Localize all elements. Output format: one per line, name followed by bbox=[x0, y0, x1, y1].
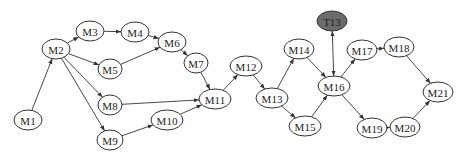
node-label: M15 bbox=[295, 121, 316, 133]
node-m7: M7 bbox=[184, 53, 208, 73]
node-m11: M11 bbox=[199, 89, 231, 109]
node-label: T13 bbox=[323, 16, 341, 28]
edge-m1-m2 bbox=[32, 59, 52, 111]
edge-m4-m6 bbox=[148, 36, 159, 39]
node-label: M3 bbox=[82, 26, 98, 38]
node-label: M4 bbox=[127, 27, 143, 39]
edge-m2-m8 bbox=[64, 57, 103, 97]
node-label: M20 bbox=[395, 122, 416, 134]
node-label: M21 bbox=[428, 87, 449, 99]
edge-m10-m11 bbox=[180, 105, 202, 115]
node-m6: M6 bbox=[158, 32, 186, 52]
node-m20: M20 bbox=[390, 117, 420, 137]
edge-m18-m21 bbox=[407, 56, 431, 84]
edge-m13-m15 bbox=[281, 106, 295, 118]
node-m14: M14 bbox=[284, 39, 314, 59]
node-m15: M15 bbox=[289, 116, 321, 136]
edge-m17-m18 bbox=[377, 48, 384, 49]
node-label: M5 bbox=[102, 64, 118, 76]
edge-m8-m11 bbox=[122, 100, 199, 104]
node-label: M2 bbox=[48, 44, 63, 56]
edge-m11-m12 bbox=[223, 75, 238, 91]
node-m10: M10 bbox=[151, 110, 183, 130]
edge-m15-m16 bbox=[312, 95, 328, 117]
node-m1: M1 bbox=[14, 110, 42, 130]
node-label: M13 bbox=[262, 93, 283, 105]
edge-m7-m11 bbox=[201, 72, 210, 89]
edge-m20-m21 bbox=[413, 100, 430, 118]
node-m18: M18 bbox=[384, 37, 414, 57]
process-flow-diagram: M1M2M3M4M5M6M7M8M9M10M11M12M13M14M15M16M… bbox=[0, 0, 463, 157]
node-label: M9 bbox=[102, 135, 118, 147]
node-label: M17 bbox=[352, 45, 373, 57]
edge-m14-m16 bbox=[307, 57, 326, 77]
node-label: M8 bbox=[102, 100, 118, 112]
edge-m16-t13 bbox=[332, 31, 333, 76]
node-label: M14 bbox=[289, 44, 310, 56]
node-m2: M2 bbox=[42, 39, 70, 59]
node-label: M10 bbox=[157, 115, 178, 127]
node-m9: M9 bbox=[97, 130, 123, 150]
node-label: M6 bbox=[164, 37, 180, 49]
node-m21: M21 bbox=[423, 82, 453, 102]
node-label: M7 bbox=[188, 58, 204, 70]
node-label: M12 bbox=[236, 61, 257, 73]
edge-m16-m17 bbox=[341, 59, 355, 77]
edge-m12-m13 bbox=[253, 75, 265, 89]
node-t13: T13 bbox=[317, 11, 347, 31]
edge-m16-m19 bbox=[342, 95, 364, 120]
edge-m13-m14 bbox=[277, 58, 294, 88]
node-m17: M17 bbox=[347, 40, 377, 60]
edge-m9-m10 bbox=[122, 125, 153, 136]
node-label: M1 bbox=[20, 115, 35, 127]
edge-m5-m6 bbox=[121, 47, 160, 64]
node-label: M19 bbox=[362, 123, 383, 135]
node-label: M18 bbox=[389, 42, 410, 54]
node-m16: M16 bbox=[318, 76, 350, 96]
node-m8: M8 bbox=[98, 95, 122, 115]
node-m5: M5 bbox=[98, 59, 122, 79]
edge-m2-m3 bbox=[67, 37, 79, 43]
node-m12: M12 bbox=[230, 56, 262, 76]
node-label: M16 bbox=[324, 81, 345, 93]
node-m19: M19 bbox=[357, 118, 387, 138]
edge-m2-m5 bbox=[68, 54, 99, 65]
node-m4: M4 bbox=[121, 22, 149, 42]
node-label: M11 bbox=[205, 94, 225, 106]
nodes-layer: M1M2M3M4M5M6M7M8M9M10M11M12M13M14M15M16M… bbox=[14, 11, 453, 150]
edge-m6-m7 bbox=[181, 50, 188, 56]
node-m13: M13 bbox=[256, 88, 288, 108]
graph-svg: M1M2M3M4M5M6M7M8M9M10M11M12M13M14M15M16M… bbox=[0, 0, 463, 157]
node-m3: M3 bbox=[76, 21, 104, 41]
